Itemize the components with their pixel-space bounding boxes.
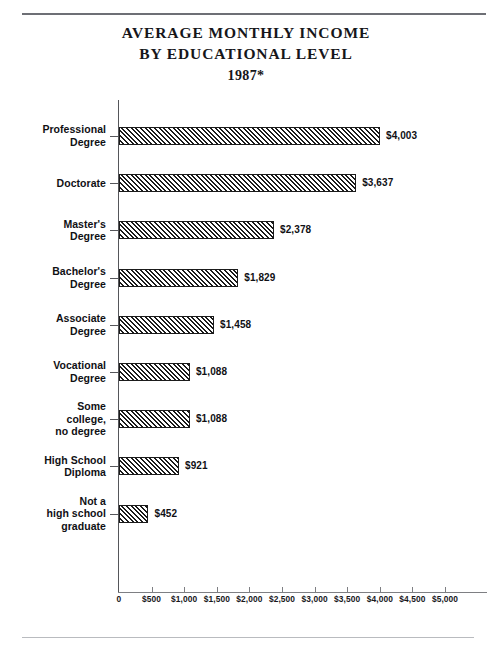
x-axis-tick-label: $5,000 bbox=[432, 594, 458, 604]
bottom-divider-rule bbox=[22, 637, 474, 638]
category-label-line: college, bbox=[0, 413, 106, 426]
bar bbox=[119, 221, 274, 239]
x-axis-tick-label: 0 bbox=[117, 594, 122, 604]
x-axis-tick-label: $1,500 bbox=[204, 594, 230, 604]
category-label-line: High School bbox=[0, 454, 106, 467]
category-label-line: Master's bbox=[0, 218, 106, 231]
bar bbox=[119, 174, 356, 192]
x-axis-tick bbox=[412, 587, 413, 592]
bar bbox=[119, 363, 190, 381]
x-axis-tick-label: $3,000 bbox=[301, 594, 327, 604]
bar-value-label: $452 bbox=[154, 508, 177, 519]
bar bbox=[119, 410, 190, 428]
category-label-line: Diploma bbox=[0, 466, 106, 479]
bar-row: Not ahigh schoolgraduate$452 bbox=[0, 491, 492, 537]
bar-value-label: $4,003 bbox=[386, 130, 417, 141]
x-axis-tick-label: $500 bbox=[142, 594, 161, 604]
category-label-line: Degree bbox=[0, 372, 106, 385]
bar-row: AssociateDegree$1,458 bbox=[0, 302, 492, 348]
bar-row: Somecollege,no degree$1,088 bbox=[0, 396, 492, 442]
y-axis-tick bbox=[110, 183, 118, 184]
category-label: ProfessionalDegree bbox=[0, 123, 106, 148]
y-axis-tick bbox=[110, 136, 118, 137]
category-label: Doctorate bbox=[0, 177, 106, 190]
bar-row: Master'sDegree$2,378 bbox=[0, 207, 492, 253]
category-label-line: Degree bbox=[0, 136, 106, 149]
x-axis-tick bbox=[445, 587, 446, 592]
x-axis-tick-label: $4,000 bbox=[367, 594, 393, 604]
x-axis-tick bbox=[282, 587, 283, 592]
x-axis-tick bbox=[347, 587, 348, 592]
bar-value-label: $1,088 bbox=[196, 366, 227, 377]
x-axis-tick bbox=[217, 587, 218, 592]
category-label: Master'sDegree bbox=[0, 218, 106, 243]
category-label: Bachelor'sDegree bbox=[0, 265, 106, 290]
x-axis-tick-label: $1,000 bbox=[171, 594, 197, 604]
y-axis-tick bbox=[110, 230, 118, 231]
bar-value-label: $1,088 bbox=[196, 413, 227, 424]
x-axis-tick bbox=[249, 587, 250, 592]
bar bbox=[119, 269, 238, 287]
category-label-line: high school bbox=[0, 507, 106, 520]
x-axis-tick-label: $3,500 bbox=[334, 594, 360, 604]
bar bbox=[119, 316, 214, 334]
category-label: VocationalDegree bbox=[0, 359, 106, 384]
y-axis-tick bbox=[110, 466, 118, 467]
bar-row: VocationalDegree$1,088 bbox=[0, 349, 492, 395]
bar-value-label: $1,829 bbox=[244, 272, 275, 283]
category-label: High SchoolDiploma bbox=[0, 454, 106, 479]
bar-value-label: $921 bbox=[185, 460, 208, 471]
category-label-line: no degree bbox=[0, 425, 106, 438]
category-label-line: Some bbox=[0, 400, 106, 413]
bar-value-label: $3,637 bbox=[362, 177, 393, 188]
bar-row: ProfessionalDegree$4,003 bbox=[0, 113, 492, 159]
x-axis-tick-label: $2,000 bbox=[236, 594, 262, 604]
category-label-line: Doctorate bbox=[0, 177, 106, 190]
bar bbox=[119, 457, 179, 475]
category-label-line: graduate bbox=[0, 520, 106, 533]
bar bbox=[119, 127, 380, 145]
bar-row: High SchoolDiploma$921 bbox=[0, 443, 492, 489]
y-axis-tick bbox=[110, 325, 118, 326]
category-label: Not ahigh schoolgraduate bbox=[0, 495, 106, 533]
y-axis-tick bbox=[110, 419, 118, 420]
x-axis-tick bbox=[315, 587, 316, 592]
bar-row: Doctorate$3,637 bbox=[0, 160, 492, 206]
category-label-line: Degree bbox=[0, 278, 106, 291]
x-axis-tick-label: $4,500 bbox=[399, 594, 425, 604]
category-label-line: Not a bbox=[0, 495, 106, 508]
x-axis-tick bbox=[380, 587, 381, 592]
bar bbox=[119, 505, 148, 523]
y-axis-tick bbox=[110, 514, 118, 515]
x-axis-line bbox=[118, 592, 487, 593]
bar-row: Bachelor'sDegree$1,829 bbox=[0, 255, 492, 301]
category-label-line: Bachelor's bbox=[0, 265, 106, 278]
bar-value-label: $2,378 bbox=[280, 224, 311, 235]
x-axis-tick bbox=[152, 587, 153, 592]
category-label: Somecollege,no degree bbox=[0, 400, 106, 438]
category-label-line: Associate bbox=[0, 312, 106, 325]
y-axis-tick bbox=[110, 278, 118, 279]
bar-value-label: $1,458 bbox=[220, 319, 251, 330]
x-axis-tick bbox=[184, 587, 185, 592]
x-axis-tick-label: $2,500 bbox=[269, 594, 295, 604]
y-axis-tick bbox=[110, 372, 118, 373]
category-label-line: Vocational bbox=[0, 359, 106, 372]
chart-page: AVERAGE MONTHLY INCOME BY EDUCATIONAL LE… bbox=[0, 0, 492, 645]
bar-chart-plot: ProfessionalDegree$4,003Doctorate$3,637M… bbox=[0, 0, 492, 645]
category-label-line: Degree bbox=[0, 230, 106, 243]
category-label-line: Degree bbox=[0, 325, 106, 338]
category-label: AssociateDegree bbox=[0, 312, 106, 337]
category-label-line: Professional bbox=[0, 123, 106, 136]
